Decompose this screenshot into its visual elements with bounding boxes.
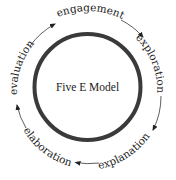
arrow-evaluation-to-engagement bbox=[30, 24, 55, 46]
arrow-elaboration-to-evaluation bbox=[17, 105, 26, 128]
stage-elaboration: elaboration bbox=[21, 125, 73, 169]
arrow-explanation-to-elaboration bbox=[76, 163, 100, 164]
diagram-title: Five E Model bbox=[56, 81, 119, 93]
five-e-cycle-diagram: Five E Model engagement exploration expl… bbox=[0, 0, 176, 180]
stage-engagement: engagement bbox=[55, 1, 128, 21]
stage-evaluation: evaluation bbox=[7, 37, 36, 95]
arrow-exploration-to-explanation bbox=[153, 96, 161, 130]
